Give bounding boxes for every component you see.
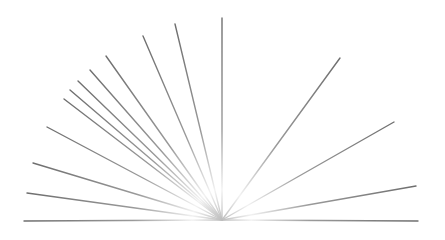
ray-line — [33, 163, 222, 220]
ray-group — [24, 18, 418, 221]
ray-line — [143, 36, 222, 220]
ray-line — [222, 220, 418, 221]
ray-line — [90, 70, 222, 220]
ray-line — [70, 90, 222, 220]
ray-line — [24, 220, 222, 221]
ray-line — [106, 56, 222, 220]
ray-line — [175, 24, 222, 220]
ray-line — [47, 127, 222, 220]
ray-line — [222, 58, 340, 220]
radial-fan-diagram — [0, 0, 445, 240]
ray-line — [78, 81, 222, 220]
